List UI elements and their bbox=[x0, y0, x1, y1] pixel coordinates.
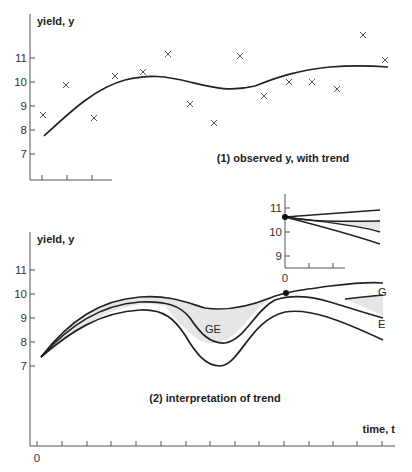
panel2-ylabel: yield, y bbox=[37, 233, 75, 245]
inset-x-origin: 0 bbox=[282, 272, 288, 284]
panel2-ytick: 10 bbox=[14, 288, 27, 300]
inset-origin-dot bbox=[282, 214, 288, 220]
panel1-ylabel: yield, y bbox=[37, 15, 75, 27]
panel2-x-origin: 0 bbox=[34, 452, 40, 464]
inset-ytick: 11 bbox=[270, 202, 282, 214]
panel1-caption: (1) observed y, with trend bbox=[217, 152, 349, 164]
panel2: 11 10 9 8 7 0 time, t yield, y bbox=[14, 232, 395, 464]
inset-ytick: 9 bbox=[276, 250, 282, 262]
panel1-ytick: 9 bbox=[21, 100, 27, 112]
panel1-ytick: 8 bbox=[21, 124, 27, 136]
panel2-ytick: 11 bbox=[15, 264, 27, 276]
chart-canvas: 11 10 9 8 7 yield, y (1) o bbox=[0, 0, 412, 472]
observed-points bbox=[40, 32, 388, 126]
ge-band-shading bbox=[41, 297, 272, 357]
panel2-ytick: 8 bbox=[21, 336, 27, 348]
label-e: E bbox=[378, 318, 385, 330]
panel2-xlabel: time, t bbox=[363, 423, 396, 435]
panel1-ytick: 11 bbox=[15, 52, 27, 64]
label-g: G bbox=[378, 286, 387, 298]
panel1-ytick: 10 bbox=[14, 76, 27, 88]
band-label-ge: GE bbox=[205, 323, 221, 335]
panel1: 11 10 9 8 7 yield, y (1) o bbox=[14, 14, 388, 180]
panel2-ytick: 9 bbox=[21, 312, 27, 324]
panel2-ytick: 7 bbox=[21, 360, 27, 372]
marked-point bbox=[283, 290, 289, 296]
inset-ytick: 10 bbox=[269, 226, 282, 238]
inset-chart: 11 10 9 0 bbox=[269, 194, 380, 284]
panel1-ytick: 7 bbox=[21, 148, 27, 160]
panel2-caption: (2) interpretation of trend bbox=[149, 392, 280, 404]
